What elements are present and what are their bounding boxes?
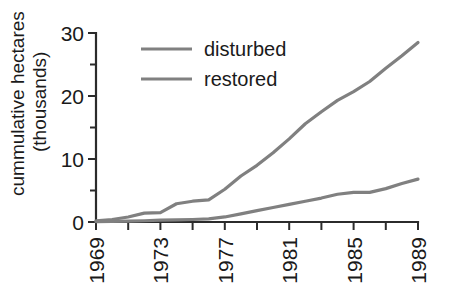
y-axis-ticks: 30 20 10 0 <box>61 22 96 234</box>
y-tick-label-20: 20 <box>61 85 84 108</box>
x-tick-label-1985: 1985 <box>343 237 366 284</box>
y-axis-title-line2: (thousands) <box>29 52 50 152</box>
y-axis-title-line1: cummulative hectares <box>7 11 28 196</box>
x-tick-label-1981: 1981 <box>278 237 301 284</box>
y-axis-title: cummulative hectares (thousands) <box>7 11 50 196</box>
x-tick-label-1977: 1977 <box>214 237 237 284</box>
legend-label-disturbed: disturbed <box>204 38 286 60</box>
y-tick-label-10: 10 <box>61 148 84 171</box>
chart-container: cummulative hectares (thousands) 30 20 1… <box>0 0 450 303</box>
line-chart: cummulative hectares (thousands) 30 20 1… <box>0 0 450 303</box>
y-tick-label-0: 0 <box>72 211 84 234</box>
x-axis-tick-labels: 1969 1973 1977 1981 1985 1989 <box>85 237 430 284</box>
x-tick-label-1969: 1969 <box>85 237 108 284</box>
x-axis-ticks <box>96 222 418 230</box>
x-tick-label-1973: 1973 <box>149 237 172 284</box>
y-tick-label-30: 30 <box>61 22 84 45</box>
series-line-restored <box>96 179 418 222</box>
legend-label-restored: restored <box>204 68 277 90</box>
chart-legend: disturbed restored <box>141 38 286 90</box>
x-tick-label-1989: 1989 <box>407 237 430 284</box>
